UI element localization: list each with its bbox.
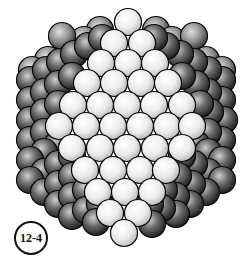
figure-label-text: 12-4	[20, 231, 42, 246]
front-sphere	[111, 220, 138, 247]
front-sphere	[169, 135, 196, 162]
figure-label-badge: 12-4	[14, 221, 48, 255]
